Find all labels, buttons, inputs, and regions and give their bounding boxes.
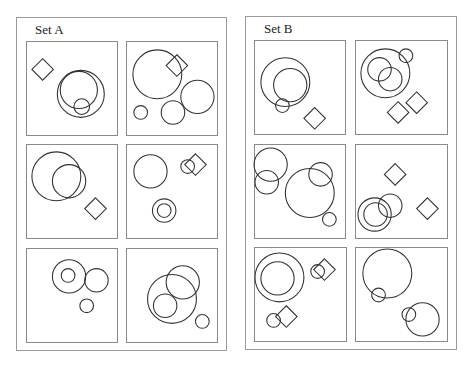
diamond-shape bbox=[32, 59, 54, 81]
set-a-cell-5 bbox=[26, 248, 118, 343]
circle-shape bbox=[274, 68, 307, 101]
set-b-cell-2 bbox=[355, 40, 448, 135]
circle-shape bbox=[61, 269, 75, 283]
circle-shape bbox=[152, 199, 175, 222]
set-b-cell-3 bbox=[254, 144, 346, 239]
circle-shape bbox=[161, 101, 184, 124]
set-b-cell-6 bbox=[355, 247, 448, 342]
set-a-cell-3 bbox=[26, 144, 118, 239]
circle-shape bbox=[153, 294, 176, 317]
circle-shape bbox=[311, 265, 325, 279]
circle-shape bbox=[181, 80, 214, 113]
circle-shape bbox=[372, 288, 386, 302]
set-b-title: Set B bbox=[264, 21, 293, 37]
circle-shape bbox=[363, 249, 412, 298]
circle-shape bbox=[368, 58, 391, 81]
circle-shape bbox=[148, 274, 197, 323]
diamond-shape bbox=[406, 92, 428, 114]
circle-shape bbox=[309, 163, 332, 186]
diamond-shape bbox=[85, 198, 107, 220]
circle-shape bbox=[134, 106, 148, 120]
circle-shape bbox=[32, 152, 81, 201]
circle-shape bbox=[195, 315, 209, 329]
circle-shape bbox=[255, 170, 278, 193]
circle-shape bbox=[52, 260, 85, 293]
set-b-cell-4 bbox=[355, 144, 448, 239]
circle-shape bbox=[364, 203, 387, 226]
diamond-shape bbox=[384, 164, 406, 186]
circle-shape bbox=[60, 71, 97, 108]
circle-shape bbox=[379, 194, 402, 217]
circle-shape bbox=[261, 262, 294, 295]
circle-shape bbox=[285, 169, 334, 218]
diamond-shape bbox=[417, 198, 439, 220]
set-a-cell-6 bbox=[126, 248, 218, 343]
circle-shape bbox=[134, 155, 167, 188]
circle-shape bbox=[267, 314, 281, 328]
set-b-cell-1 bbox=[254, 40, 346, 135]
diamond-shape bbox=[166, 55, 188, 77]
circle-shape bbox=[323, 213, 337, 227]
diamond-shape bbox=[387, 102, 409, 124]
circle-shape bbox=[157, 204, 171, 218]
set-a-cell-2 bbox=[126, 41, 218, 136]
circle-shape bbox=[166, 266, 199, 299]
diamond-shape bbox=[185, 154, 207, 176]
diamond-shape bbox=[304, 108, 326, 130]
circle-shape bbox=[254, 148, 287, 181]
set-a-cell-1 bbox=[26, 41, 118, 136]
set-a-title: Set A bbox=[35, 22, 64, 38]
circle-shape bbox=[80, 299, 94, 313]
set-b-cell-5 bbox=[254, 247, 347, 342]
set-a-cell-4 bbox=[126, 144, 218, 239]
circle-shape bbox=[85, 269, 108, 292]
circle-shape bbox=[379, 67, 402, 90]
